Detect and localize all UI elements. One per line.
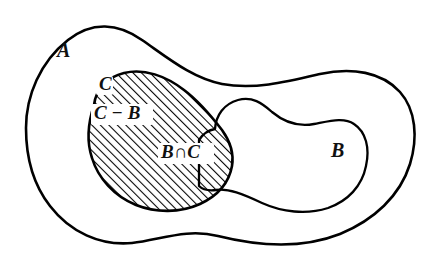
set-diagram: A C C − B B∩C B (0, 0, 436, 267)
label-set-c-group: C (96, 73, 113, 95)
label-c-minus-b-group: C − B (91, 102, 153, 125)
label-c-minus-b: C − B (94, 102, 140, 123)
label-b-intersect-c: B∩C (160, 141, 200, 162)
label-b-intersect-c-group: B∩C (158, 141, 214, 164)
label-set-c: C (99, 73, 112, 94)
venn-diagram-canvas: A C C − B B∩C B (0, 0, 436, 267)
label-set-a: A (55, 39, 70, 61)
label-set-b: B (330, 139, 344, 161)
